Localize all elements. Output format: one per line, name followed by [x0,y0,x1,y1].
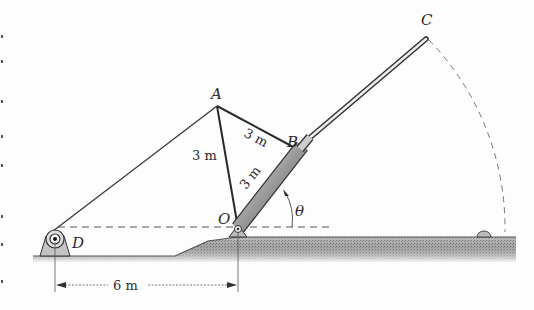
theta-arrow [283,189,289,196]
boom-swing-arc [429,40,505,232]
hydraulic-boom-diagram: 6 m A B C D O θ 3 m 3 m 3 m [0,0,534,310]
rod-collar-fill [300,137,310,149]
left-edge-marks [1,35,3,283]
dim-label-OB: 3 m [237,163,264,192]
label-C: C [421,11,433,29]
ground-stop [477,231,491,237]
label-O: O [218,210,230,228]
dim-label-DO: 6 m [113,278,138,293]
ground [33,237,516,262]
label-D: D [71,234,84,252]
dim-label-AB: 3 m [242,125,271,150]
cable-DA [53,106,217,231]
label-B: B [286,133,298,151]
label-A: A [209,85,222,103]
boom-rod-inner [293,39,426,152]
theta-arc [285,192,293,227]
label-theta: θ [295,202,304,220]
dim-label-AO: 3 m [192,148,217,163]
diagram-canvas: 6 m A B C D O θ 3 m 3 m 3 m [0,0,534,310]
